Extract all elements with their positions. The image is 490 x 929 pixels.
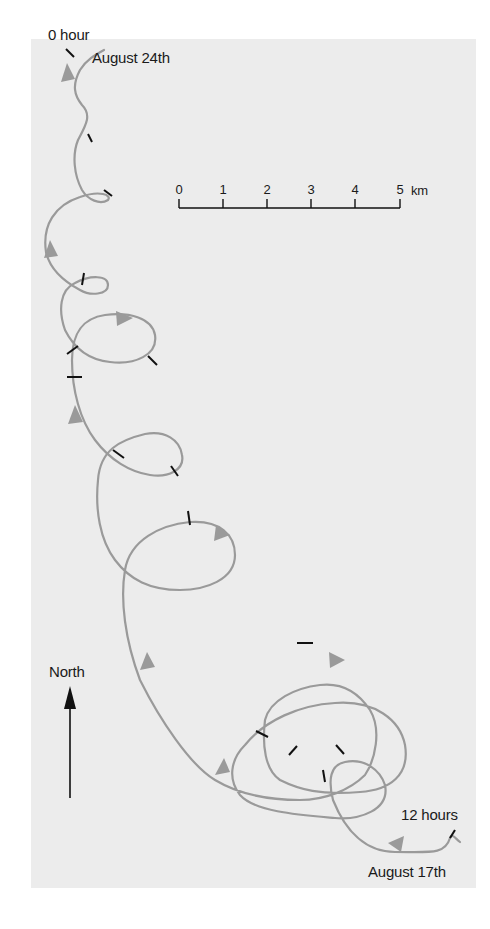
arrow-icon — [329, 652, 345, 668]
arrow-icon — [140, 652, 155, 670]
tick-mark — [66, 49, 74, 57]
scale-tick-4: 4 — [351, 183, 358, 196]
time-ticks — [66, 49, 455, 838]
scale-bar — [179, 199, 400, 208]
tick-mark — [113, 450, 124, 458]
trajectory-map — [0, 0, 490, 929]
end-time-label: 12 hours — [401, 807, 458, 822]
tick-mark — [88, 134, 92, 142]
tick-mark — [148, 356, 157, 365]
north-arrow — [64, 686, 76, 798]
tick-mark — [323, 770, 325, 782]
tick-mark — [289, 746, 297, 755]
scale-tick-3: 3 — [307, 183, 314, 196]
scale-tick-2: 2 — [263, 183, 270, 196]
arrow-icon — [61, 63, 75, 82]
arrow-icon — [388, 836, 404, 852]
start-time-label: 0 hour — [48, 27, 89, 42]
scale-tick-5: 5 — [396, 183, 403, 196]
north-label: North — [49, 664, 85, 679]
drift-track — [45, 50, 460, 852]
start-date-label: August 24th — [92, 50, 170, 65]
tick-mark — [336, 745, 344, 754]
arrow-icon — [215, 758, 230, 775]
end-date-label: August 17th — [368, 864, 446, 879]
arrow-icon — [116, 311, 133, 326]
tick-mark — [82, 273, 84, 285]
scale-tick-0: 0 — [175, 183, 182, 196]
tick-mark — [256, 731, 268, 737]
scale-tick-1: 1 — [219, 183, 226, 196]
scale-unit: km — [411, 184, 428, 197]
north-arrow-icon — [64, 686, 76, 709]
